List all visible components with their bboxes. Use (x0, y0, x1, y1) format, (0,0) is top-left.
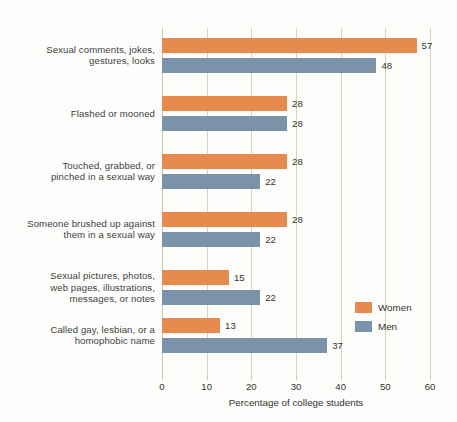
x-tick-mark-10 (207, 376, 208, 380)
x-tick-label-0: 0 (159, 381, 164, 392)
legend-label-women: Women (378, 302, 412, 313)
bar-value-label: 37 (332, 338, 343, 353)
x-axis-title: Percentage of college students (162, 397, 430, 408)
horizontal-bar-chart: Sexual comments, jokes,gestures, looksFl… (0, 0, 457, 422)
x-tick-mark-40 (341, 376, 342, 380)
x-tick-label-40: 40 (335, 381, 346, 392)
bar-women-3[interactable] (162, 212, 287, 227)
bar-men-0[interactable] (162, 58, 376, 73)
x-tick-mark-60 (430, 376, 431, 380)
bar-value-label: 48 (381, 58, 392, 73)
legend-item-men[interactable]: Men (355, 318, 450, 334)
bar-value-label: 28 (292, 154, 303, 169)
x-tick-label-20: 20 (246, 381, 257, 392)
legend-item-women[interactable]: Women (355, 299, 450, 315)
legend: Women Men (355, 299, 450, 337)
x-tick-label-60: 60 (425, 381, 436, 392)
legend-swatch-women-icon (355, 302, 372, 313)
bar-men-2[interactable] (162, 174, 260, 189)
x-tick-mark-20 (251, 376, 252, 380)
x-tick-label-30: 30 (291, 381, 302, 392)
bar-women-2[interactable] (162, 154, 287, 169)
bar-women-5[interactable] (162, 318, 220, 333)
bar-value-label: 22 (265, 174, 276, 189)
bar-value-label: 15 (234, 270, 245, 285)
bar-value-label: 28 (292, 212, 303, 227)
x-tick-mark-30 (296, 376, 297, 380)
bar-value-label: 22 (265, 290, 276, 305)
bar-women-0[interactable] (162, 38, 417, 53)
x-tick-mark-0 (162, 376, 163, 380)
bar-value-label: 13 (225, 318, 236, 333)
legend-label-men: Men (378, 321, 397, 332)
bar-value-label: 57 (422, 38, 433, 53)
x-tick-mark-50 (385, 376, 386, 380)
legend-swatch-men-icon (355, 321, 372, 332)
bars-layer: 572828281513482822222237 (0, 0, 457, 422)
bar-men-4[interactable] (162, 290, 260, 305)
x-axis-ticks: 0102030405060 (0, 376, 457, 392)
x-tick-label-10: 10 (201, 381, 212, 392)
bar-men-3[interactable] (162, 232, 260, 247)
bar-value-label: 22 (265, 232, 276, 247)
x-tick-label-50: 50 (380, 381, 391, 392)
bar-women-1[interactable] (162, 96, 287, 111)
bar-women-4[interactable] (162, 270, 229, 285)
bar-value-label: 28 (292, 96, 303, 111)
bar-value-label: 28 (292, 116, 303, 131)
bar-men-5[interactable] (162, 338, 327, 353)
bar-men-1[interactable] (162, 116, 287, 131)
